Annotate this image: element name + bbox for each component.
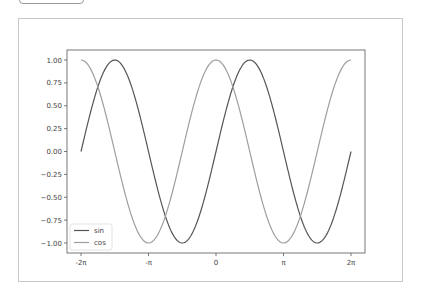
y-tick-label: −0.50 xyxy=(41,194,62,202)
x-axis-ticks: -2π-π0π2π xyxy=(75,253,356,267)
y-axis-ticks: 1.000.750.500.250.00−0.25−0.50−0.75−1.00 xyxy=(41,57,67,248)
y-tick-label: 1.00 xyxy=(46,57,62,65)
x-tick-label: -2π xyxy=(75,259,87,267)
y-tick-label: 0.25 xyxy=(46,125,62,133)
x-tick-label: π xyxy=(281,259,286,267)
y-tick-label: −0.75 xyxy=(41,217,62,225)
y-tick-label: 0.50 xyxy=(46,102,62,110)
x-tick-label: 2π xyxy=(347,259,356,267)
x-tick-label: -π xyxy=(145,259,153,267)
y-tick-label: −1.00 xyxy=(41,240,62,248)
series-line-sin xyxy=(81,60,351,243)
y-tick-label: −0.25 xyxy=(41,171,62,179)
y-tick-label: 0.75 xyxy=(46,79,62,87)
plot-curves xyxy=(81,60,351,243)
chart-svg: -2π-π0π2π 1.000.750.500.250.00−0.25−0.50… xyxy=(0,0,421,296)
y-tick-label: 0.00 xyxy=(46,148,62,156)
legend-label-sin: sin xyxy=(94,227,104,235)
x-tick-label: 0 xyxy=(214,259,218,267)
legend-label-cos: cos xyxy=(94,239,106,247)
legend: sin cos xyxy=(70,224,112,250)
